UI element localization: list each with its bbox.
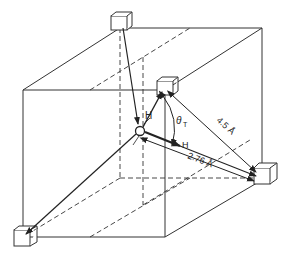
bond-to-bottom-left	[26, 134, 136, 234]
cube-bottom-left	[14, 226, 37, 246]
labels: H H – θ T 4.5 Å 2.76 Å	[145, 110, 237, 169]
cube-top-center	[157, 77, 178, 95]
label-h-upper: H	[145, 110, 152, 121]
label-h-right: H	[182, 140, 189, 150]
label-oo-far: 4.5 Å	[215, 115, 237, 136]
center-oxygen	[136, 127, 145, 136]
small-cubes	[14, 12, 277, 246]
water-tetrahedral-diagram: H H – θ T 4.5 Å 2.76 Å	[0, 0, 294, 263]
cube-right	[254, 163, 277, 184]
cube-top-left	[111, 12, 132, 30]
svg-text:–: –	[172, 139, 177, 149]
label-oo-near: 2.76 Å	[186, 151, 214, 170]
label-theta-sub: T	[183, 121, 188, 128]
distance-4-5	[172, 95, 256, 172]
bond-to-top-left	[123, 28, 138, 124]
label-theta: θ	[176, 115, 182, 126]
